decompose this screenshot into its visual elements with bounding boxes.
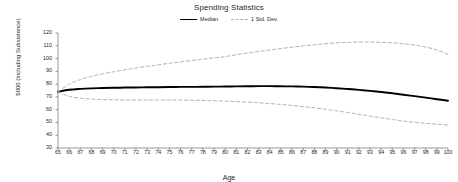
- series-line-std-dev-upper: [58, 42, 448, 92]
- series-line-median: [58, 86, 448, 101]
- plot-area: [0, 0, 458, 182]
- spending-statistics-chart: Spending Statistics Median 1 Std. Dev. $…: [0, 0, 458, 182]
- series-line-std-dev-lower: [58, 92, 448, 125]
